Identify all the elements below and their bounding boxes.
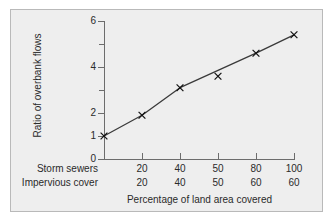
series-line-ratio-of-overbank-flows xyxy=(104,35,294,136)
chart-plot-area: 6 4 2 1 0 Ratio of overbank flows Storm … xyxy=(0,0,334,223)
figure: 6 4 2 1 0 Ratio of overbank flows Storm … xyxy=(0,0,334,223)
data-series-svg xyxy=(0,0,334,223)
